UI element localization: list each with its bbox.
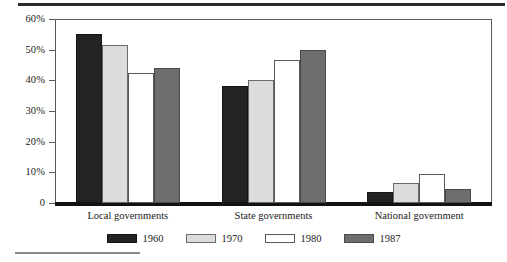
- bar-1987-local-governments: [154, 68, 180, 203]
- top-rule: [18, 3, 505, 6]
- legend-item-1980: 1980: [265, 233, 322, 244]
- bar-1960-local-governments: [76, 34, 102, 203]
- footnote-rule: [15, 252, 140, 254]
- bar-1970-state-governments: [248, 80, 274, 203]
- y-axis-tick-label: 10%: [25, 166, 45, 178]
- bar-chart-figure: 010%20%30%40%50%60% Local governmentsSta…: [0, 0, 507, 262]
- x-axis-category-label: National government: [346, 209, 492, 223]
- legend: 1960197019801987: [0, 230, 507, 246]
- legend-item-1970: 1970: [186, 233, 243, 244]
- x-axis-category-label: State governments: [201, 209, 347, 223]
- y-axis-tick-label: 50%: [25, 44, 45, 56]
- x-axis-category-label: Local governments: [55, 209, 201, 223]
- y-axis-tick-label: 0: [40, 197, 45, 209]
- bars-layer: [55, 19, 492, 203]
- y-axis-tick-label: 60%: [25, 13, 45, 25]
- bar-1970-national-government: [393, 183, 419, 203]
- bar-1970-local-governments: [102, 45, 128, 203]
- legend-swatch-1980: [265, 234, 295, 243]
- bar-1980-state-governments: [274, 60, 300, 203]
- legend-swatch-1987: [344, 234, 374, 243]
- y-axis-tick-label: 20%: [25, 136, 45, 148]
- x-axis-category-labels: Local governmentsState governmentsNation…: [55, 209, 492, 225]
- bar-1987-state-governments: [300, 50, 326, 203]
- bar-1960-state-governments: [222, 86, 248, 203]
- legend-label-1987: 1987: [380, 233, 401, 244]
- bar-1980-national-government: [419, 174, 445, 203]
- bar-1980-local-governments: [128, 73, 154, 203]
- legend-swatch-1960: [107, 234, 137, 243]
- bar-1960-national-government: [367, 192, 393, 203]
- legend-item-1987: 1987: [344, 233, 401, 244]
- legend-label-1970: 1970: [222, 233, 243, 244]
- bar-1987-national-government: [445, 189, 471, 203]
- y-axis-tick-label: 40%: [25, 74, 45, 86]
- legend-swatch-1970: [186, 234, 216, 243]
- legend-label-1980: 1980: [301, 233, 322, 244]
- y-axis-tick-label: 30%: [25, 105, 45, 117]
- legend-item-1960: 1960: [107, 233, 164, 244]
- legend-label-1960: 1960: [143, 233, 164, 244]
- y-axis: 010%20%30%40%50%60%: [0, 0, 55, 210]
